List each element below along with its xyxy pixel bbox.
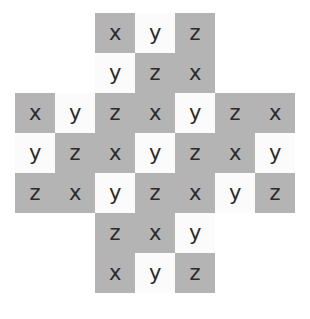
grid-cell-r4-c1: y [15,133,55,173]
cell-letter: y [109,182,121,203]
cell-letter: x [109,22,121,43]
grid-cell-r1-c4: y [135,13,175,53]
grid-cell-r3-c2: y [55,93,95,133]
cell-letter: x [229,142,241,163]
cell-letter: x [269,102,281,123]
grid-cell-r2-c3: y [95,53,135,93]
grid-cell-r7-c5: z [175,253,215,293]
cell-letter: y [149,142,161,163]
grid-cell-r6-c3: z [95,213,135,253]
grid-cell-r7-c4: y [135,253,175,293]
grid-cell-r4-c5: z [175,133,215,173]
cell-letter: y [69,102,81,123]
cell-letter: y [229,182,241,203]
cell-letter: z [150,62,161,83]
grid-cell-r3-c7: x [255,93,295,133]
cell-letter: z [70,142,81,163]
grid-cell-r6-c4: x [135,213,175,253]
grid-cell-r1-c5: z [175,13,215,53]
grid-cell-r5-c6: y [215,173,255,213]
cross-letter-grid: xyzyzxxyzxyzxyzxyzxyzxyzxyzzxyxyz [15,13,296,295]
grid-cell-r5-c2: x [55,173,95,213]
cell-letter: z [110,222,121,243]
cell-letter: x [69,182,81,203]
cell-letter: y [189,102,201,123]
cell-letter: y [149,262,161,283]
cell-letter: y [269,142,281,163]
cell-letter: x [29,102,41,123]
grid-cell-r4-c4: y [135,133,175,173]
cell-letter: y [29,142,41,163]
cell-letter: z [110,102,121,123]
grid-cell-r5-c4: z [135,173,175,213]
cell-letter: y [109,62,121,83]
cell-letter: y [189,222,201,243]
grid-cell-r3-c3: z [95,93,135,133]
grid-cell-r5-c1: z [15,173,55,213]
cell-letter: x [109,142,121,163]
cell-letter: x [149,222,161,243]
grid-cell-r4-c3: x [95,133,135,173]
cell-letter: x [149,102,161,123]
cell-letter: x [109,262,121,283]
grid-cell-r2-c5: x [175,53,215,93]
cell-letter: z [270,182,281,203]
grid-cell-r2-c4: z [135,53,175,93]
grid-cell-r4-c7: y [255,133,295,173]
cell-letter: z [190,262,201,283]
cell-letter: x [189,62,201,83]
grid-cell-r3-c1: x [15,93,55,133]
cell-letter: z [190,22,201,43]
cell-letter: z [150,182,161,203]
grid-cell-r3-c6: z [215,93,255,133]
grid-cell-r6-c5: y [175,213,215,253]
grid-cell-r3-c4: x [135,93,175,133]
grid-cell-r5-c3: y [95,173,135,213]
grid-cell-r4-c6: x [215,133,255,173]
grid-cell-r1-c3: x [95,13,135,53]
cell-letter: y [149,22,161,43]
grid-cell-r3-c5: y [175,93,215,133]
cell-letter: z [230,102,241,123]
grid-cell-r4-c2: z [55,133,95,173]
cell-letter: x [189,182,201,203]
grid-cell-r7-c3: x [95,253,135,293]
grid-cell-r5-c5: x [175,173,215,213]
grid-cell-r5-c7: z [255,173,295,213]
cell-letter: z [190,142,201,163]
cell-letter: z [30,182,41,203]
